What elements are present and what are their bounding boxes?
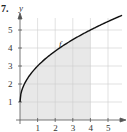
svg-text:5: 5 [106,123,111,132]
svg-text:1: 1 [36,123,41,132]
problem-number: 7. [1,3,9,14]
x-axis-arrow-icon [120,118,126,122]
y-axis-label: y [18,3,23,13]
svg-text:3: 3 [71,123,76,132]
chart: 1234512345 7. y f [0,0,127,132]
svg-text:2: 2 [8,79,13,89]
svg-text:4: 4 [8,43,13,53]
svg-text:2: 2 [53,123,58,132]
svg-text:1: 1 [8,97,13,107]
y-axis-arrow-icon [18,13,22,19]
svg-text:3: 3 [8,61,13,71]
svg-text:4: 4 [88,123,93,132]
svg-text:5: 5 [8,25,13,35]
